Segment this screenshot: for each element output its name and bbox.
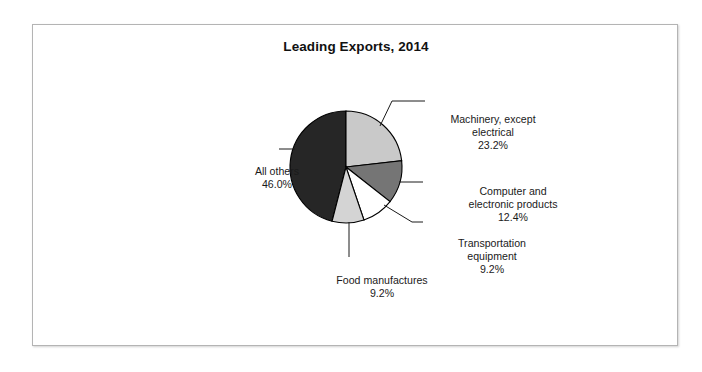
pie-label-transportation-line2: equipment — [437, 250, 547, 263]
pie-label-transportation: Transportation equipment 9.2% — [437, 237, 547, 276]
pie-label-food-value: 9.2% — [318, 287, 446, 300]
pie-label-machinery-line2: electrical — [429, 126, 557, 139]
pie-label-transportation-line1: Transportation — [437, 237, 547, 250]
pie-label-all-others-value: 46.0% — [229, 178, 325, 191]
pie-label-transportation-value: 9.2% — [437, 263, 547, 276]
pie-label-machinery-line1: Machinery, except — [429, 113, 557, 126]
pie-label-computer-line2: electronic products — [451, 198, 575, 211]
leader-line-machinery — [380, 101, 425, 126]
chart-frame: Leading Exports, 2014 Machinery, except — [32, 24, 678, 346]
pie-label-machinery: Machinery, except electrical 23.2% — [429, 113, 557, 152]
pie-label-all-others: All others 46.0% — [229, 165, 325, 191]
pie-label-all-others-line1: All others — [229, 165, 325, 178]
pie-label-computer-value: 12.4% — [451, 211, 575, 224]
pie-label-computer-electronic: Computer and electronic products 12.4% — [451, 185, 575, 224]
leader-line-transportation — [384, 205, 423, 222]
pie-label-food-line1: Food manufactures — [318, 274, 446, 287]
pie-label-computer-line1: Computer and — [451, 185, 575, 198]
chart-page: Leading Exports, 2014 Machinery, except — [0, 0, 702, 372]
pie-label-machinery-value: 23.2% — [429, 139, 557, 152]
pie-label-food-manufactures: Food manufactures 9.2% — [318, 274, 446, 300]
pie-slice-machinery — [346, 111, 402, 167]
